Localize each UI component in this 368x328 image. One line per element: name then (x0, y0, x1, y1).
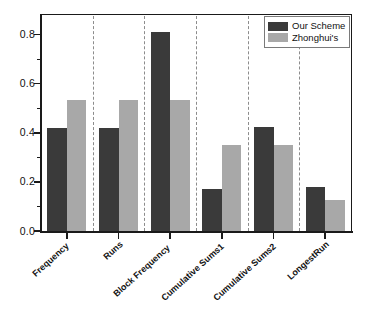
bar (325, 200, 345, 231)
x-tick (118, 232, 120, 239)
x-axis-line (40, 231, 353, 233)
y-tick-major (34, 181, 41, 182)
y-tick-label: 0.6 (1, 78, 35, 89)
x-tick (66, 232, 68, 239)
x-tick (221, 232, 223, 239)
bar (202, 189, 222, 231)
y-tick-major (34, 34, 41, 35)
legend-item: Our Scheme (268, 21, 345, 32)
y-tick-label: 0.0 (1, 226, 35, 237)
y-tick-major (34, 230, 41, 231)
y-tick-minor (37, 206, 41, 207)
x-tick (273, 232, 275, 239)
x-tick-label: Frequency (31, 242, 71, 279)
y-tick-minor (37, 59, 41, 60)
bar (222, 145, 242, 231)
bar (119, 100, 139, 231)
legend: Our Scheme Zhonghui's (264, 16, 350, 48)
bar (170, 100, 190, 231)
bar (67, 100, 87, 231)
y-tick-label: 0.4 (1, 127, 35, 138)
bar (274, 145, 294, 231)
x-tick (169, 232, 171, 239)
y-tick-minor (37, 157, 41, 158)
bar (99, 128, 119, 231)
y-axis-line (40, 14, 42, 233)
y-tick-label: 0.8 (1, 29, 35, 40)
legend-item-label: Zhonghui's (292, 33, 338, 43)
bar (254, 127, 274, 231)
y-tick-major (34, 83, 41, 84)
bar-chart: 0.00.20.40.60.8 FrequencyRunsBlock Frequ… (0, 0, 368, 328)
bar (151, 32, 171, 231)
legend-item-label: Our Scheme (292, 21, 345, 31)
legend-swatch-icon (268, 33, 288, 42)
legend-swatch-icon (268, 22, 288, 31)
x-tick (324, 232, 326, 239)
y-tick-minor (37, 108, 41, 109)
bar (47, 128, 67, 231)
y-tick-major (34, 132, 41, 133)
y-tick-label: 0.2 (1, 176, 35, 187)
x-tick-label: LongestRun (286, 240, 331, 282)
legend-item: Zhonghui's (268, 32, 345, 43)
x-tick-label: Runs (102, 240, 125, 262)
bar (306, 187, 326, 231)
